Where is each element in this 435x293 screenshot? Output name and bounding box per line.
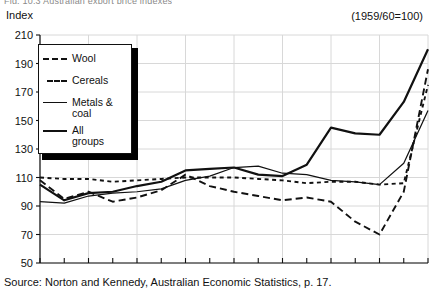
legend-swatch-wool (43, 53, 67, 64)
y-tick-label: 110 (15, 172, 33, 184)
legend-swatch-cereals (43, 75, 67, 86)
legend-box: Wool Cereals Metals & coal All groups (38, 44, 132, 154)
legend-item-all-groups: All groups (43, 125, 104, 147)
legend-item-cereals: Cereals (43, 75, 108, 86)
y-tick-label: 210 (15, 29, 33, 41)
source-note: Source: Norton and Kennedy, Australian E… (4, 276, 332, 288)
chart-legend: Wool Cereals Metals & coal All groups (38, 44, 134, 156)
y-tick-label: 90 (21, 200, 33, 212)
y-tick-label: 150 (15, 115, 33, 127)
legend-swatch-all-groups (43, 125, 67, 136)
y-tick-label: 170 (15, 86, 33, 98)
y-tick-label: 190 (15, 58, 33, 70)
y-tick-label: 130 (15, 143, 33, 155)
legend-item-metals-coal: Metals & coal (43, 97, 113, 119)
legend-swatch-metals-coal (43, 97, 67, 108)
legend-label-metals-coal: Metals & coal (72, 97, 113, 119)
y-tick-label: 50 (21, 257, 33, 268)
figure-root: Fig. 10.3 Australian export price indexe… (0, 0, 435, 293)
figure-caption-cropped: Fig. 10.3 Australian export price indexe… (4, 0, 172, 4)
y-tick-label: 70 (21, 229, 33, 241)
index-base-note: (1959/60=100) (351, 10, 423, 22)
legend-label-all-groups: All groups (72, 125, 104, 147)
legend-label-wool: Wool (72, 53, 96, 64)
legend-label-cereals: Cereals (72, 75, 108, 86)
legend-item-wool: Wool (43, 53, 96, 64)
y-axis-title: Index (6, 9, 33, 21)
